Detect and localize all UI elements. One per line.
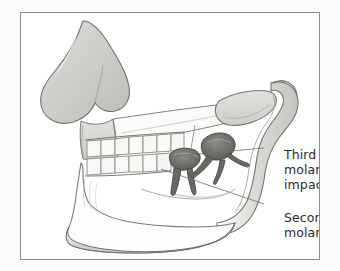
upper-tooth-6 [157,134,171,152]
label-third-molar-line-3: impacted [284,177,320,192]
jaw-illustration [21,13,319,259]
coronoid-process [215,90,276,125]
coronoid-process-group [215,90,276,125]
lower-tooth-5 [143,154,157,172]
upper-tooth-1 [87,140,101,157]
lower-tooth-1 [87,158,101,175]
third-molar-root-3 [228,153,249,167]
label-second-molar: Second molar [284,210,320,240]
label-second-molar-line-1: Second [284,210,320,225]
illustration-frame: Third molar impacted Second molar [20,12,320,260]
label-third-molar-line-1: Third [284,147,320,162]
second-molar-root-mesial [171,168,181,195]
upper-tooth-4 [129,136,143,154]
label-third-molar-line-2: molar [284,162,320,177]
upper-tooth-2 [101,139,115,156]
mandible-surface-line-3 [96,183,98,209]
second-molar-crown [169,148,200,170]
lower-tooth-3 [115,156,129,173]
figure-root: Third molar impacted Second molar [0,0,340,271]
third-molar-root-2 [213,160,225,185]
label-second-molar-line-2: molar [284,225,320,240]
mandible-body [66,163,235,253]
upper-tooth-5 [143,135,157,153]
lower-tooth-6 [157,153,171,171]
lower-tooth-2 [101,157,115,174]
nasal-bone-shape [41,21,130,123]
mandible-body-group [66,163,235,253]
retromolar-shading [171,193,229,198]
upper-tooth-3 [115,137,129,155]
label-third-molar-impacted: Third molar impacted [284,147,320,192]
lower-tooth-4 [129,155,143,172]
